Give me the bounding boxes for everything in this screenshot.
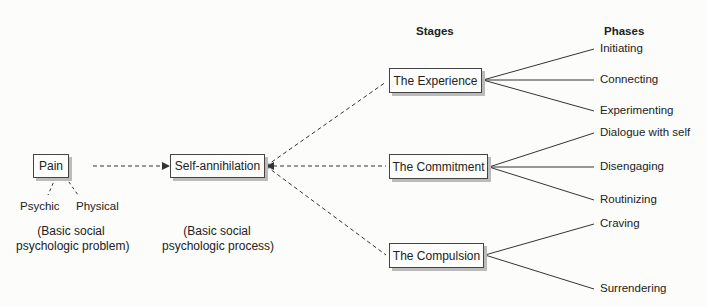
pain-label: Pain: [39, 159, 63, 173]
stage-commitment-box: The Commitment: [389, 154, 488, 179]
phase-initiating: Initiating: [600, 42, 643, 54]
phase-dialogue-with-self: Dialogue with self: [600, 126, 690, 138]
phase-connecting: Connecting: [600, 73, 658, 85]
pain-box: Pain: [33, 154, 69, 178]
stage-compulsion-box: The Compulsion: [389, 243, 484, 268]
problem-caption: (Basic social psychologic problem): [16, 224, 126, 254]
physical-label: Physical: [76, 200, 119, 212]
self-annihilation-box: Self-annihilation: [170, 154, 265, 178]
stage-experience-box: The Experience: [389, 68, 482, 93]
self-annihilation-label: Self-annihilation: [175, 159, 260, 173]
psychic-label: Psychic: [20, 200, 60, 212]
phase-surrendering: Surrendering: [600, 282, 666, 294]
phase-experimenting: Experimenting: [600, 104, 674, 116]
process-caption: (Basic social psychologic process): [162, 224, 272, 254]
stages-header: Stages: [416, 25, 454, 37]
phase-routinizing: Routinizing: [600, 193, 657, 205]
phase-disengaging: Disengaging: [600, 160, 664, 172]
phases-header: Phases: [604, 25, 644, 37]
phase-craving: Craving: [600, 217, 640, 229]
